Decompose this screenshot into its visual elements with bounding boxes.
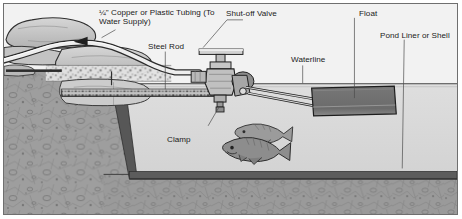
label-float: Float <box>359 9 377 18</box>
valve-inlet-nut <box>191 71 206 82</box>
diagram-root: ¼" Copper or Plastic Tubing (To Water Su… <box>0 0 462 219</box>
diagram-frame: ¼" Copper or Plastic Tubing (To Water Su… <box>3 3 458 215</box>
valve-body <box>205 69 236 95</box>
label-pond-liner: Pond Liner or Shell <box>380 31 450 40</box>
float <box>312 86 397 116</box>
pond-water <box>117 83 457 174</box>
label-tubing: ¼" Copper or Plastic Tubing (To Water Su… <box>99 8 217 27</box>
label-clamp: Clamp <box>167 135 191 144</box>
valve-outlet-stub <box>214 95 226 102</box>
label-shut-off-valve: Shut-off Valve <box>226 9 277 18</box>
label-waterline: Waterline <box>291 55 325 64</box>
steel-rod <box>62 89 215 96</box>
excavation-block <box>6 69 62 105</box>
valve-bonnet <box>210 62 231 69</box>
soil-under-pond <box>104 174 457 214</box>
label-steel-rod: Steel Rod <box>148 42 184 51</box>
